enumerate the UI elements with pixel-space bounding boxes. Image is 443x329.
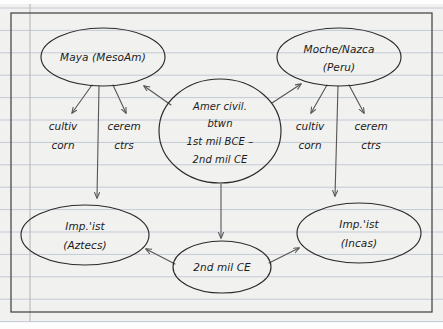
node-amer-civil-label-line-2: btwn xyxy=(207,118,232,129)
label-cerem-ctrs-right-line-1: cerem xyxy=(354,120,387,132)
label-cerem-ctrs-right-line-2: ctrs xyxy=(361,139,381,151)
node-maya-label: Maya (MesoAm) xyxy=(60,51,146,63)
node-amer-civil-label-line-3: 1st mil BCE – xyxy=(187,136,254,147)
label-cultiv-corn-right-line-2: corn xyxy=(298,139,321,151)
node-moche-nazca-label-line-2: (Peru) xyxy=(323,61,356,73)
node-moche-nazca-label-line-1: Moche/Nazca xyxy=(303,43,374,55)
node-aztecs-label-line-2: (Aztecs) xyxy=(63,239,107,251)
label-cultiv-corn-left-line-1: cultiv xyxy=(49,120,78,132)
node-incas-label-line-2: (Incas) xyxy=(341,237,377,249)
concept-map-canvas: Maya (MesoAm) Moche/Nazca (Peru) Amer ci… xyxy=(0,0,443,329)
node-incas-label-line-1: Imp.'ist xyxy=(339,218,379,230)
label-cultiv-corn-left-line-2: corn xyxy=(51,139,74,151)
node-aztecs-label-line-1: Imp.'ist xyxy=(65,220,105,232)
node-amer-civil-label-line-1: Amer civil. xyxy=(192,101,247,112)
label-cerem-ctrs-left-line-1: cerem xyxy=(107,120,140,132)
label-cerem-ctrs-left-line-2: ctrs xyxy=(114,139,134,151)
node-second-mil-ce-label: 2nd mil CE xyxy=(193,261,251,273)
node-amer-civil-label-line-4: 2nd mil CE xyxy=(192,154,248,165)
label-cultiv-corn-right-line-1: cultiv xyxy=(296,120,325,132)
notebook-page: Maya (MesoAm) Moche/Nazca (Peru) Amer ci… xyxy=(0,0,443,329)
